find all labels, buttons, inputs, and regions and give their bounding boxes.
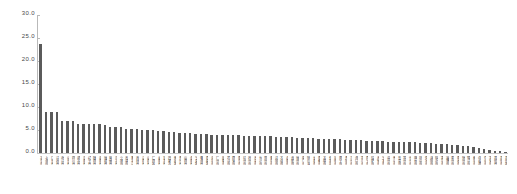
bar[interactable] <box>296 138 298 153</box>
bar[interactable] <box>344 140 346 153</box>
bar[interactable] <box>355 140 357 153</box>
bar[interactable] <box>269 136 271 153</box>
bar[interactable] <box>419 143 421 153</box>
bar[interactable] <box>56 112 58 153</box>
bar[interactable] <box>141 130 143 153</box>
bar[interactable] <box>82 124 84 153</box>
bar[interactable] <box>285 137 287 153</box>
bar[interactable] <box>125 129 127 153</box>
bar[interactable] <box>323 139 325 153</box>
bar[interactable] <box>488 150 490 153</box>
bar[interactable] <box>221 135 223 153</box>
bar[interactable] <box>146 130 148 153</box>
bar[interactable] <box>130 129 132 153</box>
bar[interactable] <box>280 137 282 153</box>
bar[interactable] <box>39 44 41 153</box>
bar[interactable] <box>333 139 335 153</box>
bar[interactable] <box>414 142 416 153</box>
bar[interactable] <box>275 137 277 153</box>
bar[interactable] <box>173 132 175 153</box>
bar[interactable] <box>72 121 74 153</box>
bar[interactable] <box>360 140 362 153</box>
bar[interactable] <box>136 129 138 153</box>
bar[interactable] <box>237 135 239 153</box>
bar[interactable] <box>253 136 255 153</box>
bar[interactable] <box>403 142 405 153</box>
x-tick-label: 银川市 <box>360 156 364 165</box>
bar[interactable] <box>430 143 432 153</box>
bar[interactable] <box>494 151 496 153</box>
bar[interactable] <box>435 144 437 153</box>
bar[interactable] <box>194 134 196 153</box>
bar[interactable] <box>408 142 410 153</box>
bar[interactable] <box>66 121 68 153</box>
bar[interactable] <box>178 133 180 153</box>
bar[interactable] <box>259 136 261 153</box>
bar[interactable] <box>365 141 367 153</box>
x-tick-label: 河南省 <box>82 156 86 165</box>
bar[interactable] <box>349 140 351 153</box>
bar[interactable] <box>467 146 469 153</box>
bar[interactable] <box>45 112 47 153</box>
bar[interactable] <box>152 130 154 153</box>
bar[interactable] <box>328 139 330 153</box>
bar-slot[interactable] <box>503 15 508 153</box>
bar[interactable] <box>392 142 394 154</box>
bar[interactable] <box>317 139 319 153</box>
bar[interactable] <box>376 141 378 153</box>
bar[interactable] <box>424 143 426 153</box>
bar[interactable] <box>88 124 90 153</box>
bar[interactable] <box>114 127 116 153</box>
x-tick-label: 湖北省 <box>76 156 80 165</box>
bar[interactable] <box>398 142 400 153</box>
bar[interactable] <box>312 138 314 153</box>
bar[interactable] <box>227 135 229 153</box>
bar[interactable] <box>210 135 212 153</box>
bar[interactable] <box>483 149 485 153</box>
bar[interactable] <box>184 133 186 153</box>
bar[interactable] <box>499 151 501 153</box>
bar[interactable] <box>381 141 383 153</box>
bar[interactable] <box>339 139 341 153</box>
bar[interactable] <box>61 121 63 153</box>
bar[interactable] <box>456 145 458 153</box>
bar[interactable] <box>77 124 79 153</box>
bar[interactable] <box>93 124 95 153</box>
bar[interactable] <box>189 133 191 153</box>
bar[interactable] <box>451 145 453 153</box>
bar[interactable] <box>387 142 389 154</box>
x-tick-label: 西藏区 <box>205 156 209 165</box>
x-tick-label: 南通市 <box>456 156 460 165</box>
y-tick-label: 15.0 <box>22 79 35 85</box>
x-tick-label: 扬州市 <box>461 156 465 165</box>
x-tick-label: 其他区 <box>504 156 508 165</box>
bar[interactable] <box>264 136 266 153</box>
bar[interactable] <box>205 134 207 153</box>
bar[interactable] <box>462 146 464 153</box>
bar[interactable] <box>440 144 442 153</box>
bar[interactable] <box>478 148 480 153</box>
bar[interactable] <box>162 131 164 153</box>
bar[interactable] <box>371 141 373 153</box>
bar[interactable] <box>168 132 170 153</box>
bar[interactable] <box>446 144 448 153</box>
bar[interactable] <box>200 134 202 153</box>
bar[interactable] <box>472 147 474 153</box>
bar[interactable] <box>120 127 122 153</box>
bar[interactable] <box>50 112 52 153</box>
bar[interactable] <box>157 131 159 153</box>
bar[interactable] <box>301 138 303 153</box>
x-tick-label: 潍坊市 <box>440 156 444 165</box>
bar[interactable] <box>216 135 218 153</box>
bar[interactable] <box>248 136 250 153</box>
x-tick-label: 兰州市 <box>349 156 353 165</box>
bar[interactable] <box>504 152 506 153</box>
bar[interactable] <box>232 135 234 153</box>
bar[interactable] <box>98 124 100 153</box>
bar[interactable] <box>291 137 293 153</box>
bar[interactable] <box>104 125 106 153</box>
bar[interactable] <box>243 136 245 153</box>
bar[interactable] <box>109 127 111 153</box>
x-tick-label: 淮安市 <box>488 156 492 165</box>
bar[interactable] <box>307 138 309 153</box>
